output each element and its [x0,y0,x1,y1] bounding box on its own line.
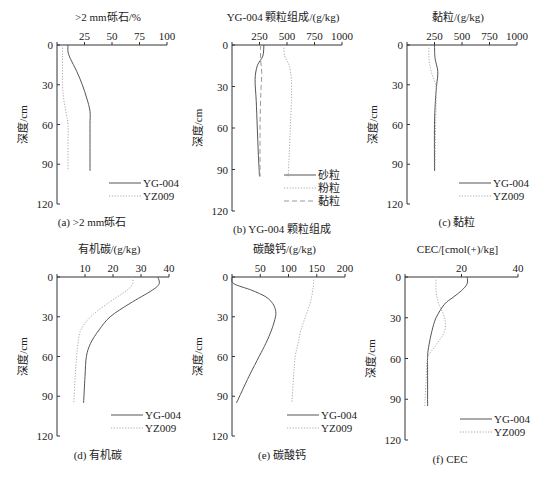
y-tick-label: 120 [37,198,54,210]
y-tick-label: 90 [217,164,229,176]
x-axis-title: CEC/[cmol(+)/kg] [417,243,498,256]
x-axis-title: 碳酸钙/(g/kg) [253,242,316,256]
y-tick-label: 90 [392,158,404,170]
chart-panel-d: 102030400306090120有机碳/(g/kg)深度/cmYG-004Y… [16,242,182,462]
chart-panel-b: 25050075010000306090120YG-004 颗粒组成/(g/kg… [191,10,354,236]
panel-caption: (a) >2 mm砾石 [58,216,127,229]
legend-label: YG-004 [494,413,531,425]
x-tick-label: 40 [164,262,176,274]
x-tick-label: 750 [306,30,323,42]
x-tick-label: 40 [513,262,525,274]
y-axis-title: 深度/cm [191,108,204,147]
legend-label: YG-004 [145,409,182,421]
panel-caption: (f) CEC [432,453,467,466]
y-tick-label: 60 [392,119,404,131]
y-tick-label: 0 [48,39,54,51]
x-tick-label: 50 [255,262,267,274]
legend-label: YZ009 [494,426,526,438]
y-tick-label: 90 [217,390,229,402]
y-tick-label: 30 [217,81,229,93]
y-axis-title: 深度/cm [191,337,204,376]
x-tick-label: 50 [107,30,119,42]
y-tick-label: 30 [390,312,402,324]
y-tick-label: 0 [223,271,229,283]
y-tick-label: 120 [385,434,402,446]
x-tick-label: 150 [309,262,326,274]
legend-label: YG-004 [143,177,180,189]
x-tick-label: 250 [426,30,443,42]
x-tick-label: 20 [456,262,468,274]
legend-label: 粉粒 [318,181,340,194]
legend-label: YZ009 [143,190,175,202]
x-tick-label: 500 [454,30,471,42]
x-axis-title: 黏粒/(g/kg) [432,10,484,24]
y-tick-label: 90 [42,158,54,170]
x-tick-label: 10 [80,262,92,274]
series-line-砂粒 [255,45,264,176]
legend-label: YG-004 [321,409,358,421]
series-line-YG-004 [434,45,437,171]
legend-label: 黏粒 [318,194,340,207]
x-tick-label: 250 [251,30,268,42]
chart-panel-c: 25050075010000306090120黏粒/(g/kg)深度/cmYG-… [366,10,530,229]
chart-panel-a: 2550751000306090120>2 mm砾石/%深度/cmYG-004Y… [16,11,180,229]
series-line-YZ009 [62,45,68,171]
panel-caption: (c) 黏粒 [439,215,476,229]
chart-canvas: 2550751000306090120>2 mm砾石/%深度/cmYG-004Y… [0,0,545,477]
y-tick-label: 120 [212,205,229,217]
series-line-YG-004 [68,45,90,171]
x-tick-label: 75 [134,30,146,42]
series-line-YG-004 [84,277,160,403]
y-tick-label: 60 [217,351,229,363]
x-tick-label: 500 [279,30,296,42]
panel-caption: (d) 有机碳 [74,448,123,462]
series-line-YZ009 [292,277,314,403]
x-tick-label: 1000 [331,30,354,42]
y-tick-label: 60 [42,351,54,363]
x-tick-label: 750 [481,30,498,42]
y-axis-title: 深度/cm [16,105,29,144]
x-tick-label: 25 [79,30,91,42]
legend-label: 砂粒 [318,168,340,181]
y-tick-label: 0 [398,39,404,51]
y-tick-label: 0 [223,39,229,51]
y-tick-label: 30 [392,79,404,91]
y-axis-title: 深度/cm [16,337,29,376]
y-tick-label: 30 [217,311,229,323]
y-tick-label: 60 [390,353,402,365]
series-line-黏粒 [260,45,262,176]
series-line-YG-004 [232,277,276,403]
y-tick-label: 30 [42,79,54,91]
panel-caption: (e) 碳酸钙 [258,448,306,462]
legend-label: YG-004 [493,177,530,189]
x-axis-title: YG-004 颗粒组成/(g/kg) [227,10,340,24]
y-tick-label: 0 [48,271,54,283]
x-axis-title: >2 mm砾石/% [75,11,141,23]
legend-label: YZ009 [321,422,353,434]
y-axis-title: 深度/cm [366,105,379,144]
chart-panel-f: 20400306090120CEC/[cmol(+)/kg]深度/cmYG-00… [364,243,531,466]
series-line-粉粒 [284,45,292,176]
y-tick-label: 120 [387,198,404,210]
panel-caption: (b) YG-004 颗粒组成 [233,222,331,236]
x-tick-label: 100 [159,30,176,42]
y-tick-label: 90 [42,390,54,402]
y-tick-label: 120 [37,430,54,442]
legend-label: YZ009 [145,422,177,434]
chart-panel-e: 501001502000306090120碳酸钙/(g/kg)深度/cmYG-0… [191,242,358,462]
x-tick-label: 100 [280,262,297,274]
y-tick-label: 0 [396,271,402,283]
legend-label: YZ009 [493,190,525,202]
y-tick-label: 30 [42,311,54,323]
y-tick-label: 90 [390,393,402,405]
x-tick-label: 20 [108,262,120,274]
y-axis-title: 深度/cm [364,339,377,378]
y-tick-label: 60 [42,119,54,131]
y-tick-label: 120 [212,430,229,442]
x-tick-label: 1000 [506,30,529,42]
x-tick-label: 200 [337,262,354,274]
series-line-YG-004 [427,277,467,406]
y-tick-label: 60 [217,122,229,134]
x-axis-title: 有机碳/(g/kg) [78,242,141,256]
series-line-YZ009 [74,277,133,403]
